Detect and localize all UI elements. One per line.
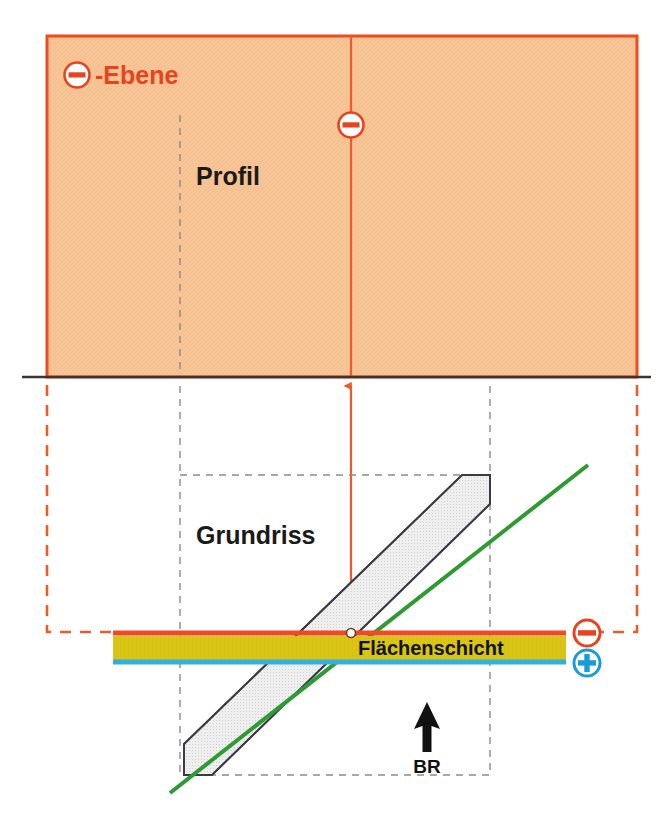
intersection-node [347, 629, 356, 638]
profil-label: Profil [196, 162, 260, 190]
minus-bar [343, 122, 360, 127]
left-projection-bracket [47, 385, 113, 632]
diagram-canvas: -Ebene Profil Grundriss [0, 0, 672, 837]
plus-bar-vertical [584, 654, 589, 672]
minus-symbol-profile-axis [339, 113, 364, 138]
br-label: BR [413, 756, 441, 777]
profil-panel: -Ebene Profil [47, 36, 637, 377]
grundriss-label: Grundriss [196, 521, 315, 549]
flaechenschicht-label: Flächenschicht [358, 637, 504, 659]
technical-diagram: -Ebene Profil Grundriss [0, 0, 672, 837]
minus-bar [578, 630, 596, 635]
minus-bar [69, 72, 86, 77]
right-projection-bracket [578, 385, 637, 632]
green-axis-line [170, 465, 588, 793]
band-inner-edge-upper [184, 475, 462, 744]
br-direction-indicator: BR [413, 702, 441, 777]
minus-symbol-title [65, 63, 90, 88]
flaechenschicht-band: Flächenschicht [113, 633, 566, 662]
minus-symbol-layer-right [574, 620, 600, 646]
ebene-label: -Ebene [95, 61, 178, 89]
plus-symbol-layer-right [574, 650, 600, 676]
br-arrow-icon [414, 702, 440, 752]
